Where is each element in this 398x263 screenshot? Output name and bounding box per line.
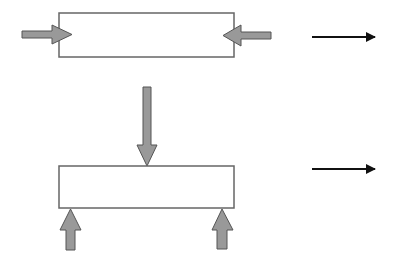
bottom-beam <box>59 166 234 208</box>
right-support-arrow-icon <box>212 209 233 249</box>
top-beam <box>59 13 234 57</box>
left-support-arrow-icon <box>60 209 81 250</box>
force-diagram <box>0 0 398 263</box>
center-load-arrow-icon <box>137 87 157 166</box>
